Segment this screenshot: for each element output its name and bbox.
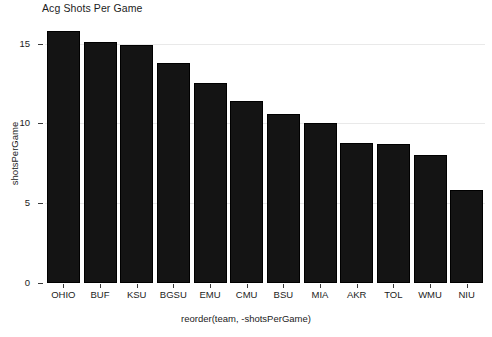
bar-bgsu [157,63,190,283]
x-tick-mark [357,284,358,288]
bar-ksu [120,45,153,283]
y-tick-label: 15 [0,39,30,49]
x-tick-mark [467,284,468,288]
x-tick-mark [430,284,431,288]
x-tick-mark [320,284,321,288]
x-tick-mark [100,284,101,288]
x-tick-mark [393,284,394,288]
x-tick-mark [173,284,174,288]
y-tick-label: 5 [0,198,30,208]
x-tick-mark [63,284,64,288]
x-tick-mark [137,284,138,288]
bar-bsu [267,114,300,283]
bar-tol [377,144,410,283]
bar-emu [194,83,227,283]
bar-akr [340,143,373,283]
bar-niu [450,190,483,283]
x-tick-mark [247,284,248,288]
plot-area [45,18,485,283]
y-tick-mark [38,123,43,124]
x-tick-label-niu: NIU [437,290,492,300]
bar-buf [84,42,117,283]
y-tick-mark [38,203,43,204]
bar-ohio [47,31,80,283]
bar-chart: Acg Shots Per Game shotsPerGame reorder(… [0,0,492,337]
y-tick-mark [38,44,43,45]
chart-title: Acg Shots Per Game [42,2,142,14]
bar-cmu [230,101,263,283]
y-tick-label: 10 [0,118,30,128]
x-tick-mark [210,284,211,288]
x-tick-mark [283,284,284,288]
bar-mia [304,123,337,283]
y-tick-label: 0 [0,278,30,288]
bar-wmu [414,155,447,283]
y-tick-mark [38,283,43,284]
x-axis-title: reorder(team, -shotsPerGame) [0,313,492,324]
